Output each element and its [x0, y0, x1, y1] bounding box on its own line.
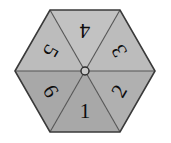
center-hub-icon	[81, 67, 89, 75]
sector-label-1: 1	[80, 99, 91, 123]
spinner-figure: 123456	[0, 0, 171, 143]
hexagon-spinner-graphic: 123456	[0, 0, 171, 143]
sector-label-4: 4	[79, 19, 90, 43]
